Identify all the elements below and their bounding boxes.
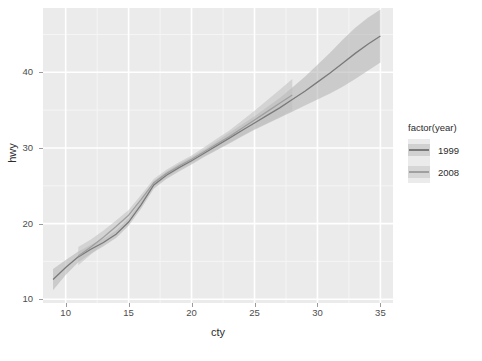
legend-key-swatch [408,139,430,161]
legend-line-swatch [409,171,429,173]
legend-item-2008[interactable]: 2008 [408,161,480,183]
legend-items: 19992008 [408,139,480,183]
y-tick-label: 10 [22,294,33,304]
legend-title: factor(year) [408,122,480,133]
y-axis-title: hwy [6,103,18,203]
legend-item-label: 2008 [438,167,459,178]
x-tick-label: 25 [249,308,260,318]
ribbon-1999 [53,10,380,291]
y-tick-label: 40 [22,67,33,77]
confidence-ribbons [53,10,380,291]
y-tick-label: 20 [22,219,33,229]
legend-item-label: 1999 [438,145,459,156]
legend-line-swatch [409,149,429,151]
x-axis-tick-labels: 101520253035 [43,308,393,324]
x-tick-label: 15 [123,308,134,318]
plot-panel [43,8,393,303]
x-tick-label: 35 [375,308,386,318]
legend: factor(year) 19992008 [408,122,480,183]
x-tick-label: 20 [186,308,197,318]
x-axis-title: cty [43,326,393,338]
x-tick-label: 30 [312,308,323,318]
legend-key-swatch [408,161,430,183]
y-tick-label: 30 [22,143,33,153]
legend-item-1999[interactable]: 1999 [408,139,480,161]
x-tick-label: 10 [60,308,71,318]
chart-figure: 10203040 101520253035 cty hwy factor(yea… [0,0,482,361]
panel-graphics [43,8,393,303]
